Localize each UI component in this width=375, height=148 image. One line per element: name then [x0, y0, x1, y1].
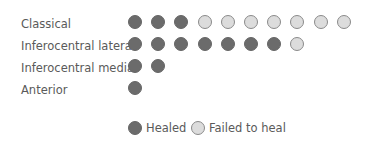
- healed-dot-icon: [128, 59, 142, 73]
- healed-dot-icon: [128, 121, 142, 135]
- legend-item-healed: Healed: [128, 121, 186, 135]
- legend-label-healed: Healed: [146, 121, 186, 135]
- chart-row: Inferocentral medial: [0, 58, 375, 80]
- failed-dot-icon: [221, 15, 235, 29]
- chart-row: Classical: [0, 14, 375, 36]
- healed-dot-icon: [128, 37, 142, 51]
- healed-dot-icon: [267, 37, 281, 51]
- row-dots: [128, 59, 165, 73]
- chart-row: Anterior: [0, 80, 375, 102]
- healed-dot-icon: [128, 81, 142, 95]
- legend-item-failed: Failed to heal: [191, 121, 286, 135]
- row-label: Inferocentral lateral: [21, 39, 135, 53]
- failed-dot-icon: [198, 15, 212, 29]
- healed-dot-icon: [128, 15, 142, 29]
- healed-dot-icon: [244, 37, 258, 51]
- failed-dot-icon: [290, 37, 304, 51]
- healed-dot-icon: [151, 59, 165, 73]
- row-label: Anterior: [21, 83, 67, 97]
- failed-dot-icon: [244, 15, 258, 29]
- healed-dot-icon: [174, 37, 188, 51]
- failed-dot-icon: [290, 15, 304, 29]
- row-dots: [128, 37, 304, 51]
- row-dots: [128, 81, 142, 95]
- row-label: Inferocentral medial: [21, 61, 137, 75]
- failed-dot-icon: [314, 15, 328, 29]
- healed-dot-icon: [151, 15, 165, 29]
- legend: Healed Failed to heal: [0, 121, 375, 139]
- chart-row: Inferocentral lateral: [0, 36, 375, 58]
- legend-label-failed: Failed to heal: [209, 121, 286, 135]
- healed-dot-icon: [151, 37, 165, 51]
- healed-dot-icon: [198, 37, 212, 51]
- row-dots: [128, 15, 351, 29]
- failed-dot-icon: [267, 15, 281, 29]
- healed-dot-icon: [221, 37, 235, 51]
- failed-dot-icon: [337, 15, 351, 29]
- row-label: Classical: [21, 17, 71, 31]
- healed-dot-icon: [174, 15, 188, 29]
- failed-dot-icon: [191, 121, 205, 135]
